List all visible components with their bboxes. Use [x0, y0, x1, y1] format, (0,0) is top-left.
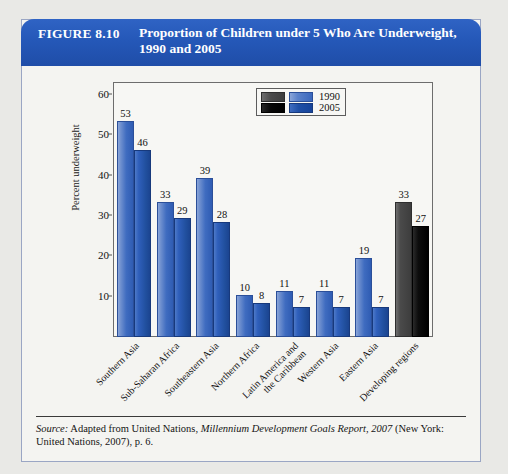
- bar-value-label: 27: [415, 213, 426, 224]
- y-axis-tick-label: 10: [63, 290, 109, 302]
- bar-value-label: 11: [319, 278, 329, 289]
- bar-group: 3329: [157, 83, 191, 337]
- bar-wrapper: 11: [316, 83, 333, 337]
- bar-wrapper: 27: [412, 83, 429, 337]
- bar-wrapper: 8: [253, 83, 270, 337]
- bar-wrapper: 46: [134, 83, 151, 337]
- bar-value-label: 7: [299, 294, 304, 305]
- figure-title-line-2: 1990 and 2005: [139, 41, 469, 57]
- bar-group: 3928: [196, 83, 230, 337]
- y-axis-tick-label: 20: [63, 249, 109, 261]
- bar-2005: 28: [213, 222, 230, 337]
- bar-1990: 33: [395, 202, 412, 337]
- bar-wrapper: 29: [174, 83, 191, 337]
- legend-swatch-blue-2005: [289, 103, 313, 113]
- bar-value-label: 7: [339, 294, 344, 305]
- legend-label-2005: 2005: [319, 102, 340, 113]
- bar-value-label: 11: [279, 278, 289, 289]
- bar-wrapper: 19: [355, 83, 372, 337]
- bar-wrapper: 11: [276, 83, 293, 337]
- figure-title: Proportion of Children under 5 Who Are U…: [139, 25, 469, 57]
- bar-value-label: 53: [120, 108, 131, 119]
- bar-value-label: 33: [160, 189, 171, 200]
- y-axis-tick-label: 50: [63, 128, 109, 140]
- legend-label-1990: 1990: [319, 91, 340, 102]
- y-axis-tick-mark: [108, 94, 112, 95]
- source-italic-title: Millennium Development Goals Report, 200…: [201, 423, 393, 434]
- y-axis: 102030405060: [59, 82, 109, 337]
- source-divider: [36, 416, 466, 417]
- x-axis-labels: Southern AsiaSub-Saharan AfricaSoutheast…: [114, 338, 432, 410]
- bar-wrapper: 7: [333, 83, 350, 337]
- y-axis-tick-mark: [108, 215, 112, 216]
- bar-wrapper: 33: [157, 83, 174, 337]
- y-axis-tick-label: 30: [63, 209, 109, 221]
- bar-2005: 7: [293, 307, 310, 337]
- bar-2005: 29: [174, 218, 191, 337]
- figure-header-bar: FIGURE 8.10 Proportion of Children under…: [21, 19, 481, 66]
- legend-swatch-blue-1990: [289, 92, 313, 102]
- bar-value-label: 39: [200, 165, 211, 176]
- bar-2005: 8: [253, 303, 270, 337]
- legend-row: 1990: [261, 92, 340, 101]
- bar-1990: 11: [276, 291, 293, 337]
- y-axis-tick-mark: [108, 174, 112, 175]
- y-axis-tick-mark: [108, 295, 112, 296]
- bar-wrapper: 33: [395, 83, 412, 337]
- figure-title-line-1: Proportion of Children under 5 Who Are U…: [139, 25, 457, 40]
- legend-row: 2005: [261, 103, 340, 112]
- bar-group: 108: [236, 83, 270, 337]
- chart-area: Percent underweight 102030405060 5346332…: [21, 66, 481, 411]
- bar-value-label: 7: [378, 294, 383, 305]
- bar-group: 3327: [395, 83, 429, 337]
- bar-1990: 11: [316, 291, 333, 337]
- bar-value-label: 10: [239, 282, 250, 293]
- bar-1990: 39: [196, 178, 213, 337]
- y-axis-tick-mark: [108, 134, 112, 135]
- bar-2005: 7: [372, 307, 389, 337]
- bar-1990: 19: [355, 258, 372, 337]
- bar-1990: 53: [117, 121, 134, 337]
- legend-swatch-grey-1990: [261, 92, 285, 102]
- bar-2005: 7: [333, 307, 350, 337]
- bars-layer: 5346332939281081171171973327: [114, 83, 432, 337]
- bar-2005: 46: [134, 150, 151, 337]
- bar-wrapper: 7: [293, 83, 310, 337]
- bar-1990: 33: [157, 202, 174, 337]
- x-axis-label-slot: Developing regions: [392, 338, 432, 410]
- bar-value-label: 28: [217, 209, 228, 220]
- bar-wrapper: 10: [236, 83, 253, 337]
- figure-number-label: FIGURE 8.10: [38, 26, 120, 42]
- y-axis-tick-label: 40: [63, 169, 109, 181]
- bar-1990: 10: [236, 295, 253, 337]
- y-axis-tick-label: 60: [63, 88, 109, 100]
- bar-value-label: 8: [259, 290, 264, 301]
- source-prefix: Source:: [36, 423, 68, 434]
- bar-2005: 27: [412, 226, 429, 337]
- bar-wrapper: 53: [117, 83, 134, 337]
- bar-value-label: 19: [359, 245, 370, 256]
- bar-group: 117: [316, 83, 350, 337]
- source-text-1: Adapted from United Nations,: [68, 423, 200, 434]
- bar-group: 197: [355, 83, 389, 337]
- y-axis-tick-mark: [108, 255, 112, 256]
- bar-wrapper: 28: [213, 83, 230, 337]
- legend-swatch-black-2005: [261, 103, 285, 113]
- bar-value-label: 46: [137, 137, 148, 148]
- bar-group: 5346: [117, 83, 151, 337]
- chart-legend: 1990 2005: [256, 88, 346, 116]
- bar-wrapper: 7: [372, 83, 389, 337]
- bar-value-label: 29: [177, 205, 188, 216]
- source-note: Source: Adapted from United Nations, Mil…: [36, 422, 468, 448]
- bar-group: 117: [276, 83, 310, 337]
- bar-value-label: 33: [398, 189, 409, 200]
- bar-wrapper: 39: [196, 83, 213, 337]
